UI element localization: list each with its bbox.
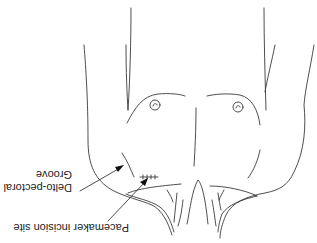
left-deltopectoral-curve (122, 153, 134, 177)
neck-stroke-1 (167, 190, 173, 202)
right-arm-outline (220, 45, 314, 238)
right-nipple-center (236, 106, 240, 108)
incision-arrowhead-icon (140, 178, 148, 186)
neck-stroke-2 (174, 193, 177, 222)
pacemaker-incision-label: Pacemaker incision site (13, 222, 129, 234)
deltopectoral-groove-label-line2: Groove (36, 169, 72, 181)
left-pectoral-curve (127, 94, 185, 123)
chest-diagram: Delto-pectoral Groove Pacemaker incision… (0, 0, 317, 243)
neck-stroke-3 (178, 200, 183, 226)
left-neck-inner-line (126, 45, 128, 110)
sternum-line (194, 108, 196, 166)
left-neck-line (128, 8, 131, 110)
left-nipple (150, 100, 160, 110)
neck-stroke-6 (219, 190, 224, 200)
right-clavicle-line (210, 186, 257, 196)
incision-arrow-line (108, 182, 145, 221)
right-lower-chest-curve (248, 150, 260, 178)
deltopectoral-groove-label-line1: Delto-pectoral (4, 182, 72, 194)
left-nipple-center (153, 104, 157, 106)
right-trapezius-curve (218, 196, 257, 232)
groove-arrowhead-icon (115, 165, 124, 172)
groove-arrow-line (80, 168, 120, 191)
throat-arch (187, 180, 208, 224)
right-nipple (233, 102, 243, 112)
right-neck-line (264, 8, 266, 110)
right-neck-inner-line (265, 45, 275, 92)
neck-stroke-4 (212, 200, 216, 226)
left-trapezius-curve (126, 194, 174, 232)
